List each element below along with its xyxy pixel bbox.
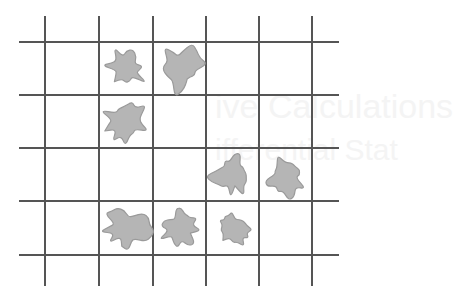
- cell-blob: [105, 50, 144, 82]
- cell-blob: [266, 157, 303, 199]
- cell-blob: [103, 103, 146, 144]
- cell-blob: [161, 208, 199, 246]
- cell-blob: [207, 154, 246, 195]
- cell-blob: [220, 213, 251, 245]
- cell-blob: [163, 45, 205, 95]
- cell-blob: [103, 209, 154, 249]
